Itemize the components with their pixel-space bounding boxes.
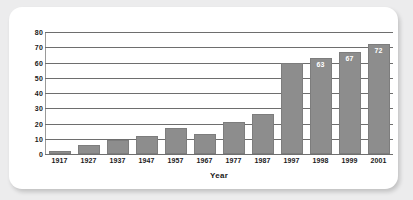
x-axis-tick-label: 1927 — [74, 157, 103, 164]
bar-slot: 72 — [364, 32, 393, 154]
y-axis-tick-label: 40 — [21, 90, 43, 97]
bar[interactable] — [252, 114, 274, 154]
y-axis-tick-label: 20 — [21, 120, 43, 127]
x-axis-tick-label: 1937 — [103, 157, 132, 164]
y-axis-tick-label: 50 — [21, 74, 43, 81]
y-axis-tick-labels: 80706050403020100 — [21, 32, 43, 154]
bar[interactable] — [107, 140, 129, 154]
x-axis-tick-label: 1987 — [248, 157, 277, 164]
bar[interactable] — [165, 128, 187, 154]
bar-slot — [45, 32, 74, 154]
x-axis-tick-label: 1977 — [219, 157, 248, 164]
x-axis-tick-label: 1998 — [306, 157, 335, 164]
x-axis-tick-label: 1997 — [277, 157, 306, 164]
bar-slot — [161, 32, 190, 154]
gridline — [45, 154, 393, 155]
bar-value-label: 67 — [340, 55, 360, 62]
bar-slot — [248, 32, 277, 154]
bars-layer: 636772 — [45, 32, 393, 154]
y-axis-tick-label: 10 — [21, 135, 43, 142]
bar[interactable] — [194, 134, 216, 154]
bar-slot — [219, 32, 248, 154]
bar-slot — [190, 32, 219, 154]
chart-card: 80706050403020100 636772 191719271937194… — [9, 7, 398, 189]
bar[interactable] — [136, 136, 158, 154]
bar-slot: 63 — [306, 32, 335, 154]
bar-slot — [277, 32, 306, 154]
x-axis-tick-label: 2001 — [364, 157, 393, 164]
x-axis-tick-label: 1917 — [45, 157, 74, 164]
y-axis-tick-label: 60 — [21, 59, 43, 66]
bar[interactable] — [49, 151, 71, 154]
bar-value-label: 72 — [369, 47, 389, 54]
x-axis-tick-label: 1967 — [190, 157, 219, 164]
y-axis-tick-label: 30 — [21, 105, 43, 112]
y-axis-tick-label: 0 — [21, 151, 43, 158]
x-axis-title: Year — [45, 171, 393, 180]
bar[interactable] — [281, 63, 303, 155]
bar-slot — [74, 32, 103, 154]
bar-slot — [103, 32, 132, 154]
bar[interactable]: 63 — [310, 58, 332, 154]
x-axis-tick-label: 1957 — [161, 157, 190, 164]
x-axis-tick-labels: 1917192719371947195719671977198719971998… — [45, 157, 393, 169]
x-axis-tick-label: 1947 — [132, 157, 161, 164]
bar[interactable] — [223, 122, 245, 154]
bar-slot — [132, 32, 161, 154]
bar[interactable]: 67 — [339, 52, 361, 154]
y-axis-tick-label: 70 — [21, 44, 43, 51]
bar-slot: 67 — [335, 32, 364, 154]
y-axis-tick-label: 80 — [21, 29, 43, 36]
x-axis-tick-label: 1999 — [335, 157, 364, 164]
bar-value-label: 63 — [311, 61, 331, 68]
bar[interactable]: 72 — [368, 44, 390, 154]
bar[interactable] — [78, 145, 100, 154]
